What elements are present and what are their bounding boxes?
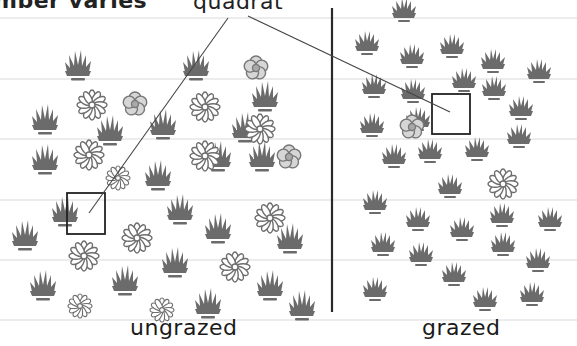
grass-tuft-icon <box>371 232 395 256</box>
grass-tuft-icon <box>382 144 406 168</box>
grass-tuft-icon <box>249 141 275 172</box>
grass-tuft-icon <box>205 213 231 244</box>
grass-tuft-icon <box>526 248 550 272</box>
ungrazed-field-label: ungrazed <box>130 315 237 340</box>
grass-tuft-icon <box>32 104 58 135</box>
quadrat-callout-label: quadrat <box>193 0 283 14</box>
grass-tuft-icon <box>97 115 123 146</box>
grass-tuft-icon <box>363 277 387 301</box>
grass-tuft-icon <box>538 207 562 231</box>
grass-tuft-icon <box>355 31 379 55</box>
grass-tuft-icon <box>520 282 544 306</box>
plants-layer <box>12 0 562 322</box>
grass-tuft-icon <box>145 160 171 191</box>
field-illustration <box>0 0 577 346</box>
grass-tuft-icon <box>438 174 462 198</box>
grass-tuft-icon <box>465 137 489 161</box>
daisy-flower-icon <box>74 140 104 170</box>
grazed-field-label: grazed <box>422 315 501 340</box>
grass-tuft-icon <box>481 49 505 73</box>
grass-tuft-icon <box>12 220 38 251</box>
grass-tuft-icon <box>150 109 176 140</box>
grass-tuft-icon <box>473 287 497 311</box>
daisy-flower-icon <box>68 294 92 318</box>
daisy-flower-icon <box>122 223 152 253</box>
grass-tuft-icon <box>392 0 416 22</box>
grass-tuft-icon <box>440 34 464 58</box>
grass-tuft-icon <box>363 190 387 214</box>
grass-tuft-icon <box>362 74 386 98</box>
grass-tuft-icon <box>65 50 91 81</box>
grass-tuft-icon <box>418 139 442 163</box>
grass-tuft-icon <box>289 290 315 321</box>
grass-tuft-icon <box>490 203 514 227</box>
grass-tuft-icon <box>257 270 283 301</box>
grass-tuft-icon <box>491 232 515 256</box>
daisy-flower-icon <box>488 169 518 199</box>
grass-tuft-icon <box>442 262 466 286</box>
grass-tuft-icon <box>167 194 193 225</box>
grass-tuft-icon <box>509 96 533 120</box>
grass-tuft-icon <box>452 68 476 92</box>
daisy-flower-icon <box>106 166 130 190</box>
grass-tuft-icon <box>507 124 531 148</box>
grass-tuft-icon <box>406 207 430 231</box>
grass-tuft-icon <box>400 44 424 68</box>
grass-tuft-icon <box>277 223 303 254</box>
daisy-flower-icon <box>220 252 250 282</box>
grass-tuft-icon <box>112 265 138 296</box>
title-fragment: mber varies <box>0 0 147 13</box>
daisy-flower-icon <box>77 90 107 120</box>
grass-tuft-icon <box>162 247 188 278</box>
quadrat-sampling-diagram: mber varies quadrat ungrazed grazed <box>0 0 577 346</box>
daisy-flower-icon <box>190 92 220 122</box>
grass-tuft-icon <box>360 113 384 137</box>
grass-tuft-icon <box>195 288 221 319</box>
daisy-flower-icon <box>69 241 99 271</box>
grass-tuft-icon <box>450 217 474 241</box>
daisy-flower-icon <box>255 203 285 233</box>
grass-tuft-icon <box>252 81 278 112</box>
grass-tuft-icon <box>32 144 58 175</box>
quadrat-frame-grazed <box>432 94 470 134</box>
grass-tuft-icon <box>30 270 56 301</box>
grass-tuft-icon <box>409 242 433 266</box>
